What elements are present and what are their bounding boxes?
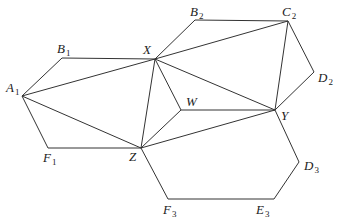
point-label-y: Y: [281, 108, 290, 123]
point-label-w: W: [186, 94, 198, 109]
point-label-a1: A1: [5, 80, 19, 97]
segment-x-y: [155, 59, 275, 110]
segment-f3-z: [141, 148, 168, 199]
segment-x-w: [155, 59, 181, 110]
point-label-e3: E3: [255, 202, 270, 219]
edges-group: [22, 20, 314, 199]
point-label-z: Z: [129, 149, 137, 164]
segment-c2-y: [275, 21, 288, 110]
segment-c2-d2: [288, 21, 314, 72]
point-label-x: X: [142, 42, 152, 57]
point-label-b1: B1: [57, 41, 70, 58]
point-label-d3: D3: [303, 158, 319, 175]
segment-a1-f1: [22, 96, 48, 148]
segment-d3-e3: [274, 162, 299, 199]
segment-d2-y: [275, 72, 314, 110]
point-label-f1: F1: [42, 150, 56, 167]
point-label-b2: B2: [190, 4, 203, 21]
segment-a1-z: [22, 96, 141, 148]
point-label-f3: F3: [162, 202, 177, 219]
segment-b2-c2: [195, 20, 288, 21]
segment-x-z: [141, 59, 155, 148]
labels-group: A1B1XB2C2D2YWZF1F3E3D3: [5, 4, 333, 219]
geometry-diagram: A1B1XB2C2D2YWZF1F3E3D3: [0, 0, 338, 221]
segment-b1-x: [62, 58, 155, 59]
point-label-c2: C2: [282, 4, 296, 21]
point-label-d2: D2: [317, 70, 333, 87]
